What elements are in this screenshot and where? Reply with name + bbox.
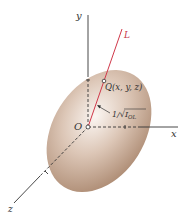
z-axis-label: z <box>7 204 13 214</box>
point-Q-label: Q(x, y, z) <box>105 82 142 92</box>
line-L-label: L <box>123 30 130 40</box>
ellipsoid <box>25 51 173 212</box>
origin-label: O <box>74 121 82 132</box>
origin-marker <box>86 125 90 129</box>
y-axis-label: y <box>75 10 82 21</box>
x-axis-label: x <box>171 128 177 139</box>
ellipsoid-diagram: y x z O L Q(x, y, z) 1/√IOL <box>0 0 194 215</box>
